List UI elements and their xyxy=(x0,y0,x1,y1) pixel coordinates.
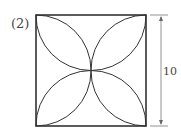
arc xyxy=(36,71,91,127)
arrow-up-icon xyxy=(159,16,163,21)
arc xyxy=(36,15,91,71)
figure-label: (2) xyxy=(11,16,29,31)
arc xyxy=(36,15,91,71)
arc xyxy=(36,71,91,127)
dimension-label: 10 xyxy=(163,65,177,78)
arc xyxy=(91,15,146,71)
arc xyxy=(91,15,146,71)
petal-arcs xyxy=(36,15,146,126)
arrow-down-icon xyxy=(159,120,163,125)
arc xyxy=(91,71,146,127)
arc xyxy=(91,70,146,126)
geometry-figure: (2) 10 xyxy=(0,0,181,131)
